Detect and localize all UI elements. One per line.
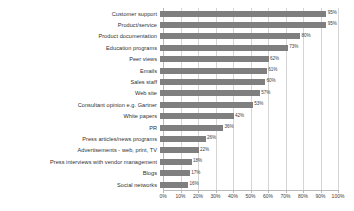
bar-value-label: 95% (326, 10, 337, 17)
bar-value-label: 80% (300, 33, 311, 40)
bar-row: Product/service95% (0, 19, 354, 30)
bar-value-label: 18% (192, 158, 203, 165)
bar (160, 113, 234, 119)
bar-track: 17% (160, 167, 335, 178)
horizontal-bar-chart: Customer support95%Product/service95%Pro… (0, 0, 354, 211)
bar-track: 16% (160, 179, 335, 190)
category-label: Social networks (0, 182, 160, 188)
bar-track: 61% (160, 65, 335, 76)
bar-track: 80% (160, 31, 335, 42)
bar (160, 56, 269, 62)
bar-track: 62% (160, 54, 335, 65)
bar (160, 79, 265, 85)
tick-label: 100% (332, 193, 345, 200)
bar (160, 147, 199, 153)
tick-label: 50% (245, 193, 255, 200)
bar (160, 22, 326, 28)
tick-label: 10% (175, 193, 185, 200)
bar-row: Sales staff60% (0, 76, 354, 87)
tick-label: 30% (210, 193, 220, 200)
bar-row: Press articles/news programs26% (0, 133, 354, 144)
category-label: Customer support (0, 11, 160, 17)
bar-track: 18% (160, 156, 335, 167)
x-axis-ticks: 0%10%20%30%40%50%60%70%80%90%100% (163, 190, 338, 202)
bar-value-label: 16% (188, 181, 199, 188)
bar (160, 159, 192, 165)
tick-label: 0% (159, 193, 166, 200)
bar-track: 73% (160, 42, 335, 53)
bar-row: Peer views62% (0, 54, 354, 65)
category-label: Product documentation (0, 33, 160, 39)
bar (160, 45, 288, 51)
bar-row: Customer support95% (0, 8, 354, 19)
bar-track: 95% (160, 8, 335, 19)
bar-track: 36% (160, 122, 335, 133)
tick-label: 80% (298, 193, 308, 200)
bar-value-label: 42% (234, 113, 245, 120)
bar (160, 90, 260, 96)
tick-label: 70% (280, 193, 290, 200)
tick-label: 90% (315, 193, 325, 200)
bar-row: PR36% (0, 122, 354, 133)
bar-row: Emails61% (0, 65, 354, 76)
bar-value-label: 62% (269, 56, 280, 63)
bar-row: Press interviews with vendor management1… (0, 156, 354, 167)
tick-label: 20% (193, 193, 203, 200)
bar-value-label: 57% (260, 90, 271, 97)
bar-track: 42% (160, 111, 335, 122)
bar-track: 22% (160, 145, 335, 156)
bar (160, 136, 206, 142)
bar-value-label: 17% (190, 170, 201, 177)
bar-value-label: 61% (267, 67, 278, 74)
bar-value-label: 22% (199, 147, 210, 154)
category-label: White papers (0, 113, 160, 119)
bar (160, 102, 253, 108)
category-label: Press interviews with vendor management (0, 159, 160, 165)
bar-track: 57% (160, 88, 335, 99)
bar-row: Blogs17% (0, 167, 354, 178)
bar (160, 33, 300, 39)
bar-track: 26% (160, 133, 335, 144)
bar (160, 11, 326, 17)
bar (160, 170, 190, 176)
bar-value-label: 26% (206, 135, 217, 142)
bar (160, 68, 267, 74)
category-label: Emails (0, 68, 160, 74)
bar-value-label: 53% (253, 101, 264, 108)
category-label: Blogs (0, 170, 160, 176)
bar-row: Product documentation80% (0, 31, 354, 42)
bar-row: Social networks16% (0, 179, 354, 190)
tick-label: 40% (228, 193, 238, 200)
bar-row: Advertisements - web, print, TV22% (0, 145, 354, 156)
category-label: Education programs (0, 45, 160, 51)
bar-value-label: 36% (223, 124, 234, 131)
category-label: Consultant opinion e.g. Gartner (0, 102, 160, 108)
tick-label: 60% (263, 193, 273, 200)
bar-value-label: 60% (265, 78, 276, 85)
bar-row: Web site57% (0, 88, 354, 99)
bar-track: 95% (160, 19, 335, 30)
bar-value-label: 73% (288, 44, 299, 51)
bar-rows: Customer support95%Product/service95%Pro… (0, 8, 354, 190)
category-label: Advertisements - web, print, TV (0, 147, 160, 153)
category-label: Sales staff (0, 79, 160, 85)
category-label: PR (0, 125, 160, 131)
bar-row: White papers42% (0, 111, 354, 122)
bar-value-label: 95% (326, 21, 337, 28)
category-label: Press articles/news programs (0, 136, 160, 142)
bar-track: 53% (160, 99, 335, 110)
bar-track: 60% (160, 76, 335, 87)
category-label: Peer views (0, 56, 160, 62)
bar (160, 125, 223, 131)
bar-row: Education programs73% (0, 42, 354, 53)
category-label: Product/service (0, 22, 160, 28)
bar-row: Consultant opinion e.g. Gartner53% (0, 99, 354, 110)
bar (160, 182, 188, 188)
category-label: Web site (0, 90, 160, 96)
